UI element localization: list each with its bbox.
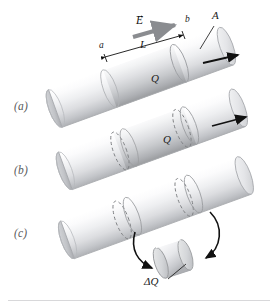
field-vector-label: E <box>136 14 143 26</box>
charge-label-b: Q <box>163 133 171 145</box>
length-label: L <box>140 38 146 50</box>
footer-divider <box>8 300 270 301</box>
area-label: A <box>212 9 219 21</box>
delta-q-disk <box>150 238 196 280</box>
panel-label-a: (a) <box>14 100 28 112</box>
figure-canvas <box>0 0 278 307</box>
curved-arrow-left <box>134 232 152 268</box>
vector-arrow-icon <box>136 14 143 19</box>
panel-label-b: (b) <box>14 164 28 176</box>
field-arrow <box>133 25 175 37</box>
delta-charge-label: ΔQ <box>144 275 158 287</box>
physics-figure: (a) (b) (c) E L a b A Q Q ΔQ <box>0 0 278 307</box>
panel-label-c: (c) <box>14 227 27 239</box>
left-bound-label: a <box>99 40 104 50</box>
curved-arrow-right <box>206 212 219 258</box>
charge-label-a: Q <box>151 72 159 84</box>
right-bound-label: b <box>185 14 190 24</box>
